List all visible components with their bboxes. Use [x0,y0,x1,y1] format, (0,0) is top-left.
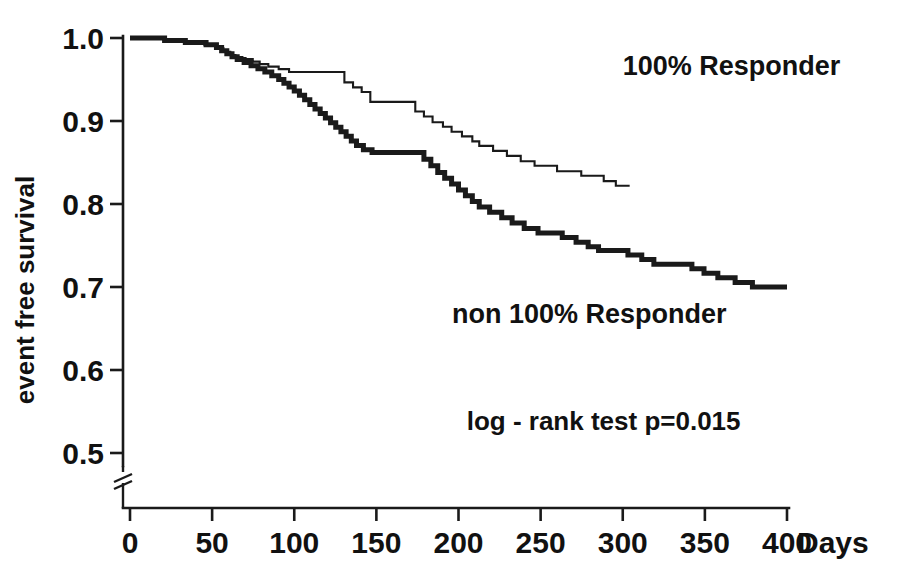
y-axis-break-icon [114,466,132,508]
x-axis-tick-label: 150 [351,526,401,559]
x-axis-tick-label: 50 [195,526,228,559]
y-axis-tick-label: 0.7 [62,271,104,304]
y-axis-tick-label: 0.8 [62,188,104,221]
y-axis-tick-label: 0.9 [62,105,104,138]
series-line-100-percent-responder [130,38,630,186]
x-axis-tick-labels: 050100150200250300350400 [122,526,812,559]
x-axis-tick-label: 250 [516,526,566,559]
y-axis-tick-labels: 1.00.90.80.70.60.5 [62,22,104,470]
y-axis-title: event free survival [10,176,40,404]
y-axis-tick-label: 1.0 [62,22,104,55]
log-rank-test-annotation: log - rank test p=0.015 [467,406,741,436]
kaplan-meier-chart: 1.00.90.80.70.60.5 050100150200250300350… [0,0,911,580]
y-axis-ticks [110,38,123,453]
survival-chart-figure: 1.00.90.80.70.60.5 050100150200250300350… [0,0,911,580]
x-axis-tick-label: 350 [680,526,730,559]
series-label-non-100-percent-responder: non 100% Responder [452,299,727,329]
x-axis-tick-label: 300 [598,526,648,559]
x-axis-tick-label: 100 [269,526,319,559]
series-label-100-percent-responder: 100% Responder [623,51,841,81]
x-axis-tick-label: 200 [433,526,483,559]
y-axis-tick-label: 0.6 [62,354,104,387]
y-axis-tick-label: 0.5 [62,437,104,470]
x-axis-ticks [130,508,787,521]
x-axis-unit-label: Days [797,526,869,559]
x-axis-tick-label: 0 [122,526,139,559]
